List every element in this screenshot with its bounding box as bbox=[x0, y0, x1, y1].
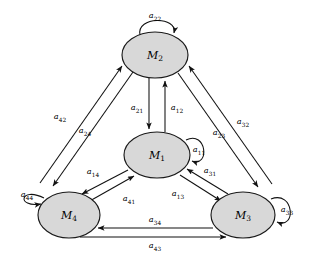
edge-label-a14: a14 bbox=[87, 166, 100, 177]
edge-a41: a41 bbox=[88, 176, 135, 204]
edge-a23: a23 bbox=[178, 73, 258, 187]
diagram-canvas: a21 a12 a42 a24 a32 bbox=[0, 0, 312, 263]
markov-chain-diagram: a21 a12 a42 a24 a32 bbox=[0, 0, 312, 263]
edge-label-a41: a41 bbox=[123, 193, 135, 204]
edge-label-a23: a23 bbox=[213, 127, 226, 138]
edge-label-a24: a24 bbox=[79, 125, 92, 136]
edge-label-a11: a11 bbox=[193, 144, 205, 155]
edge-a24: a24 bbox=[53, 72, 133, 186]
edge-label-a22: a22 bbox=[149, 10, 162, 21]
edge-label-a34: a34 bbox=[149, 214, 162, 225]
edge-a34: a34 bbox=[98, 214, 213, 228]
edge-label-a44: a44 bbox=[21, 189, 34, 200]
edge-a14: a14 bbox=[82, 166, 128, 194]
node-M3[interactable]: M3 bbox=[211, 192, 275, 238]
edge-label-a21: a21 bbox=[131, 102, 143, 113]
edge-label-a13: a13 bbox=[172, 188, 185, 199]
edge-a12: a12 bbox=[165, 81, 183, 132]
edge-label-a31: a31 bbox=[204, 165, 216, 176]
node-M2[interactable]: M2 bbox=[122, 32, 188, 78]
edge-a21: a21 bbox=[131, 78, 149, 129]
edge-label-a12: a12 bbox=[171, 102, 184, 113]
node-M1[interactable]: M1 bbox=[124, 132, 190, 178]
edge-label-a42: a42 bbox=[54, 111, 67, 122]
self-loop-a22: a22 bbox=[140, 10, 175, 35]
edge-a32: a32 bbox=[189, 66, 272, 184]
edge-label-a32: a32 bbox=[237, 116, 250, 127]
node-M4[interactable]: M4 bbox=[38, 192, 100, 238]
edge-a31: a31 bbox=[187, 165, 228, 194]
edge-a13: a13 bbox=[172, 175, 221, 201]
edge-label-a33: a33 bbox=[281, 204, 294, 215]
self-loop-a44: a44 bbox=[21, 189, 44, 204]
edge-label-a43: a43 bbox=[149, 240, 162, 251]
edge-a43: a43 bbox=[80, 237, 226, 251]
